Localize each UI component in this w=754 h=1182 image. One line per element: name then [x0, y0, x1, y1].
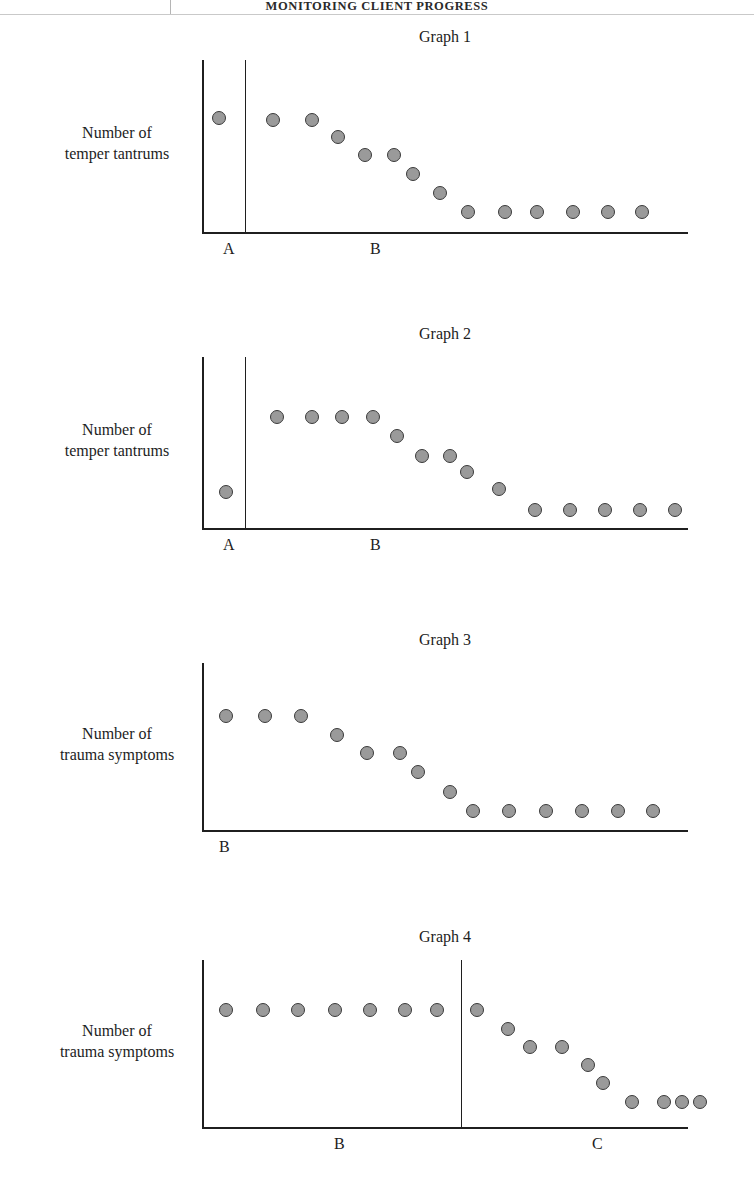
- data-point: [596, 1076, 610, 1090]
- y-axis-label-line-1: Number of: [42, 122, 192, 143]
- graph-title: Graph 4: [385, 928, 505, 946]
- data-point: [461, 205, 475, 219]
- y-axis: [202, 60, 204, 233]
- graph-title: Graph 1: [385, 28, 505, 46]
- data-point: [433, 186, 447, 200]
- data-point: [575, 804, 589, 818]
- graph-title: Graph 2: [385, 325, 505, 343]
- graph-title: Graph 3: [385, 631, 505, 649]
- x-axis: [202, 830, 688, 832]
- data-point: [328, 1003, 342, 1017]
- x-axis: [202, 528, 688, 530]
- y-axis-label: Number oftemper tantrums: [42, 419, 192, 461]
- y-axis-label: Number oftrauma symptoms: [42, 1020, 192, 1062]
- phase-label: B: [334, 1135, 345, 1153]
- data-point: [305, 410, 319, 424]
- data-point: [581, 1058, 595, 1072]
- y-axis-label-line-2: temper tantrums: [42, 143, 192, 164]
- data-point: [633, 503, 647, 517]
- data-point: [358, 148, 372, 162]
- data-point: [331, 130, 345, 144]
- phase-label: B: [219, 838, 230, 856]
- phase-label: C: [592, 1135, 603, 1153]
- data-point: [530, 205, 544, 219]
- data-point: [498, 205, 512, 219]
- phase-change-line: [461, 960, 462, 1127]
- data-point: [390, 429, 404, 443]
- page-canvas: MONITORING CLIENT PROGRESS Graph 1Number…: [0, 0, 754, 1182]
- phase-change-line: [245, 60, 246, 232]
- running-head: MONITORING CLIENT PROGRESS: [0, 0, 754, 14]
- data-point: [291, 1003, 305, 1017]
- data-point: [460, 465, 474, 479]
- phase-label: B: [370, 240, 381, 258]
- data-point: [266, 113, 280, 127]
- running-head-horizontal-rule: [0, 14, 754, 15]
- data-point: [366, 410, 380, 424]
- data-point: [563, 503, 577, 517]
- y-axis-label-line-2: trauma symptoms: [42, 1041, 192, 1062]
- data-point: [258, 709, 272, 723]
- data-point: [611, 804, 625, 818]
- data-point: [411, 765, 425, 779]
- data-point: [443, 785, 457, 799]
- running-head-vertical-rule: [170, 0, 171, 14]
- x-axis: [202, 232, 688, 234]
- y-axis: [202, 357, 204, 529]
- data-point: [219, 709, 233, 723]
- y-axis: [202, 663, 204, 831]
- phase-label: A: [223, 536, 235, 554]
- running-head-text: MONITORING CLIENT PROGRESS: [266, 0, 489, 14]
- data-point: [566, 205, 580, 219]
- data-point: [528, 503, 542, 517]
- data-point: [466, 804, 480, 818]
- data-point: [470, 1003, 484, 1017]
- data-point: [502, 804, 516, 818]
- data-point: [625, 1095, 639, 1109]
- data-point: [305, 113, 319, 127]
- data-point: [219, 485, 233, 499]
- data-point: [212, 111, 226, 125]
- y-axis-label-line-1: Number of: [42, 723, 192, 744]
- data-point: [657, 1095, 671, 1109]
- phase-label: A: [223, 240, 235, 258]
- y-axis-label-line-1: Number of: [42, 1020, 192, 1041]
- data-point: [443, 449, 457, 463]
- data-point: [415, 449, 429, 463]
- y-axis-label-line-1: Number of: [42, 419, 192, 440]
- data-point: [635, 205, 649, 219]
- y-axis-label-line-2: trauma symptoms: [42, 744, 192, 765]
- data-point: [523, 1040, 537, 1054]
- y-axis-label-line-2: temper tantrums: [42, 440, 192, 461]
- data-point: [598, 503, 612, 517]
- phase-label: B: [370, 536, 381, 554]
- y-axis: [202, 960, 204, 1128]
- data-point: [430, 1003, 444, 1017]
- data-point: [693, 1095, 707, 1109]
- data-point: [406, 167, 420, 181]
- data-point: [501, 1022, 515, 1036]
- data-point: [492, 482, 506, 496]
- y-axis-label: Number oftrauma symptoms: [42, 723, 192, 765]
- data-point: [256, 1003, 270, 1017]
- y-axis-label: Number oftemper tantrums: [42, 122, 192, 164]
- data-point: [330, 728, 344, 742]
- data-point: [270, 410, 284, 424]
- data-point: [393, 746, 407, 760]
- data-point: [335, 410, 349, 424]
- data-point: [363, 1003, 377, 1017]
- data-point: [294, 709, 308, 723]
- data-point: [387, 148, 401, 162]
- data-point: [668, 503, 682, 517]
- data-point: [646, 804, 660, 818]
- data-point: [398, 1003, 412, 1017]
- data-point: [360, 746, 374, 760]
- x-axis: [202, 1127, 688, 1129]
- data-point: [219, 1003, 233, 1017]
- data-point: [675, 1095, 689, 1109]
- phase-change-line: [245, 357, 246, 528]
- data-point: [601, 205, 615, 219]
- data-point: [539, 804, 553, 818]
- data-point: [555, 1040, 569, 1054]
